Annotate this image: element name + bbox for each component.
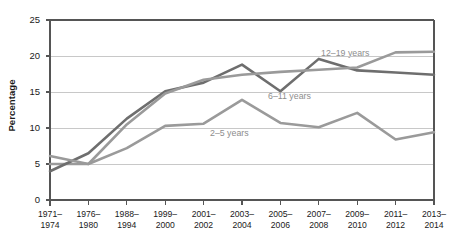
line-chart: Percentage 0510152025 1971–19741976–1980… xyxy=(0,0,464,251)
series-line xyxy=(50,100,434,164)
series-line xyxy=(50,52,434,164)
plot-area xyxy=(0,0,464,251)
